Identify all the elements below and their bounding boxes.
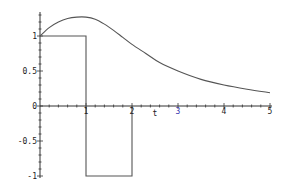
x-tick-label: 2 — [130, 107, 135, 116]
line-chart: 12345t10.50-0.5-1 — [0, 0, 283, 193]
axes — [37, 12, 272, 178]
y-tick-label: -1 — [27, 172, 37, 181]
y-tick-label: 0 — [32, 102, 37, 111]
x-tick-label: 3 — [176, 107, 181, 116]
y-tick-label: 1 — [32, 32, 37, 41]
x-axis-label: t — [153, 109, 158, 118]
y-tick-label: 0.5 — [23, 67, 38, 76]
x-tick-label: 5 — [268, 107, 273, 116]
response-curve — [40, 17, 270, 93]
x-tick-label: 4 — [222, 107, 227, 116]
x-tick-label: 1 — [84, 107, 89, 116]
series-group — [40, 17, 270, 176]
y-tick-label: -0.5 — [18, 137, 37, 146]
